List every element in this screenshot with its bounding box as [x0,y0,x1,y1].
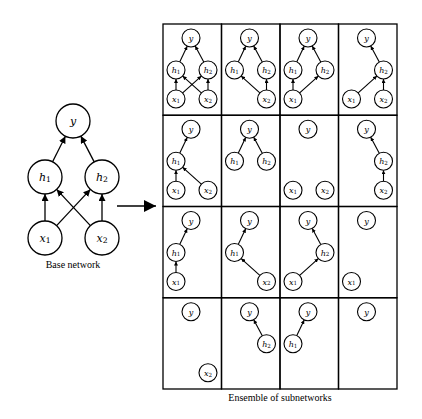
subnetwork-cell: yh1x1 [163,207,222,298]
node-h1: h1 [284,335,302,353]
edge [195,46,204,62]
svg-text:y: y [246,125,252,134]
node-x1: x1 [28,221,62,255]
node-h2: h2 [258,335,276,353]
ensemble-caption: Ensemble of subnetworks [228,392,331,403]
node-h2: h2 [375,61,393,79]
svg-text:y: y [188,125,194,134]
edge [358,76,377,93]
edge [371,137,380,153]
edge [238,46,245,62]
subnetwork-cell: yh1x1x2 [163,115,222,206]
node-y: y [182,303,200,321]
node-x2: x2 [199,364,217,382]
svg-text:y: y [363,125,369,134]
node-h2: h2 [316,244,334,262]
node-h2: h2 [258,61,276,79]
node-y: y [241,212,259,230]
subnetwork-cell: yh2 [222,298,281,389]
node-h1: h1 [28,160,62,194]
edge [297,46,304,62]
svg-text:y: y [246,307,252,316]
subnetwork-cell: yx1 [339,207,398,298]
edge [254,46,263,62]
subnetwork-cell: yh1h2x1 [280,24,339,115]
node-h2: h2 [375,152,393,170]
edge [371,46,380,62]
node-x2: x2 [258,90,276,108]
node-y: y [358,212,376,230]
subnetwork-cell: yh1h2x2 [222,24,281,115]
edge [312,46,321,62]
node-y: y [241,303,259,321]
svg-text:y: y [246,216,252,225]
edge [238,137,245,153]
edge [254,320,263,336]
node-h2: h2 [258,152,276,170]
node-x1: x1 [167,273,185,291]
node-h2: h2 [85,160,119,194]
node-x1: x1 [343,90,361,108]
node-x1: x1 [167,90,185,108]
edge [180,137,187,153]
edge [300,76,319,93]
node-x2: x2 [85,221,119,255]
node-x2: x2 [258,273,276,291]
edge [297,320,304,336]
node-h1: h1 [226,244,244,262]
edge [241,76,260,93]
svg-text:y: y [188,34,194,43]
svg-text:y: y [363,34,369,43]
node-x1: x1 [284,273,302,291]
svg-text:y: y [363,216,369,225]
node-h1: h1 [167,244,185,262]
subnetwork-cell: y [339,298,398,389]
node-y: y [358,303,376,321]
svg-text:y: y [363,307,369,316]
node-x1: x1 [284,90,302,108]
svg-text:y: y [69,115,77,128]
subnetwork-cell: yh1 [280,298,339,389]
edge [183,167,202,184]
edge [254,137,263,153]
node-y: y [358,120,376,138]
node-x2: x2 [316,181,334,199]
subnetwork-cell: yh1h2x1x2 [163,24,222,115]
node-h1: h1 [226,152,244,170]
svg-text:y: y [188,307,194,316]
node-y: y [299,212,317,230]
node-x2: x2 [199,181,217,199]
node-x2: x2 [199,90,217,108]
node-y: y [182,29,200,47]
svg-text:y: y [305,216,311,225]
edge [300,259,319,276]
node-y: y [241,29,259,47]
subnetwork-cell: yh1h2 [222,115,281,206]
node-y: y [182,212,200,230]
node-h2: h2 [316,61,334,79]
svg-text:y: y [188,216,194,225]
node-h1: h1 [167,152,185,170]
dropout-diagram: yh1h2x1x2 yh1h2x1x2yh1h2x2yh1h2x1yh2x1x2… [0,0,422,419]
ensemble-grid: yh1h2x1x2yh1h2x2yh1h2x1yh2x1x2yh1x1x2yh1… [163,24,397,389]
node-x2: x2 [375,181,393,199]
edge [180,229,187,245]
subnetwork-cell: yh2x1x2 [339,24,398,115]
node-x1: x1 [343,273,361,291]
subnetwork-cell: yh1x2 [222,207,281,298]
subnetwork-cell: yx2 [163,298,222,389]
node-y: y [241,120,259,138]
node-x1: x1 [284,181,302,199]
node-h2: h2 [199,61,217,79]
node-h1: h1 [284,61,302,79]
node-y: y [299,120,317,138]
node-y: y [182,120,200,138]
svg-text:y: y [305,307,311,316]
node-y: y [299,303,317,321]
svg-text:y: y [305,125,311,134]
node-h1: h1 [226,61,244,79]
edge [180,46,187,62]
svg-text:y: y [246,34,252,43]
node-x1: x1 [167,181,185,199]
subnetwork-cell: yh2x2 [339,115,398,206]
